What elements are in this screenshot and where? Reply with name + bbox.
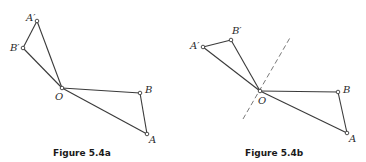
segment-a-prime-b-prime <box>23 21 37 48</box>
point-o <box>60 86 64 90</box>
segment-a-prime-o <box>37 21 62 88</box>
dashed-axis-line <box>243 36 291 119</box>
point-a-prime <box>35 19 39 23</box>
segment-o-a <box>260 91 347 133</box>
label-o: O <box>258 95 266 106</box>
label-a-prime: A′ <box>25 12 36 23</box>
caption-figure-5-4a: Figure 5.4a <box>53 148 111 158</box>
diagram-canvas: A′ B′ O B A Figure 5.4a A′ B′ O B A Figu… <box>0 0 366 162</box>
point-b-prime <box>21 46 25 50</box>
point-a-prime <box>201 45 205 49</box>
label-o: O <box>55 91 63 102</box>
segment-o-b <box>260 91 338 92</box>
label-a: A <box>148 134 156 145</box>
segment-b-prime-o <box>23 48 62 88</box>
caption-figure-5-4b: Figure 5.4b <box>245 148 304 158</box>
label-a: A <box>348 133 356 144</box>
segment-b-a <box>140 93 147 134</box>
point-o <box>258 89 262 93</box>
segment-b-a <box>338 92 347 133</box>
figure-5-4a: A′ B′ O B A Figure 5.4a <box>9 12 156 158</box>
segment-o-a <box>62 88 147 134</box>
point-b <box>336 90 340 94</box>
segment-a-prime-b-prime <box>203 40 231 47</box>
point-b <box>138 91 142 95</box>
segment-b-prime-o <box>231 40 260 91</box>
label-b-prime: B′ <box>231 25 242 36</box>
segment-a-prime-o <box>203 47 260 91</box>
figure-5-4b: A′ B′ O B A Figure 5.4b <box>189 25 356 158</box>
point-b-prime <box>229 38 233 42</box>
label-b: B <box>144 84 152 95</box>
segment-o-b <box>62 88 140 93</box>
label-b-prime: B′ <box>9 42 20 53</box>
label-b: B <box>342 84 350 95</box>
label-a-prime: A′ <box>189 40 200 51</box>
